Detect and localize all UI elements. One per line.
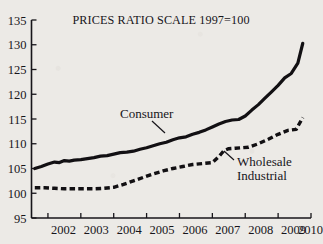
x-tick-label: 2006 bbox=[182, 223, 207, 237]
x-tick-label: 2010 bbox=[298, 223, 323, 237]
x-tick-label: 2003 bbox=[84, 223, 109, 237]
x-tick-label: 2007 bbox=[215, 223, 240, 237]
y-tick-label: 135 bbox=[8, 14, 27, 28]
y-axis: 95100105110115120125130135 bbox=[8, 14, 37, 226]
x-tick-label: 2008 bbox=[248, 223, 273, 237]
chart-title: PRICES RATIO SCALE 1997=100 bbox=[72, 13, 249, 27]
series-label-wholesale: Wholesale bbox=[237, 154, 292, 169]
annotation-group: Consumer Wholesale Industrial bbox=[120, 106, 292, 183]
y-tick-label: 95 bbox=[14, 212, 27, 226]
y-tick-label: 100 bbox=[8, 187, 27, 201]
price-index-chart: PRICES RATIO SCALE 1997=100 951001051101… bbox=[0, 0, 323, 244]
wholesale-leader-line bbox=[224, 151, 234, 160]
y-tick-label: 105 bbox=[8, 162, 27, 176]
y-tick-label-group: 95100105110115120125130135 bbox=[8, 14, 27, 226]
y-tick-label: 110 bbox=[8, 137, 26, 151]
x-tick-label-group: 200220032004200520062007200820092010 bbox=[51, 223, 323, 237]
x-tick-label: 2004 bbox=[117, 223, 143, 237]
y-tick-label: 120 bbox=[8, 88, 27, 102]
series-label-consumer: Consumer bbox=[120, 106, 174, 121]
y-tick-label: 125 bbox=[8, 63, 27, 77]
chart-title-group: PRICES RATIO SCALE 1997=100 bbox=[72, 13, 249, 27]
series-label-industrial: Industrial bbox=[237, 168, 287, 183]
chart-svg: PRICES RATIO SCALE 1997=100 951001051101… bbox=[0, 0, 323, 244]
x-axis: 200220032004200520062007200820092010 bbox=[32, 213, 323, 237]
y-tick-label: 115 bbox=[8, 113, 26, 127]
x-tick-label: 2002 bbox=[51, 223, 76, 237]
y-tick-label: 130 bbox=[8, 38, 27, 52]
x-tick-label: 2005 bbox=[150, 223, 175, 237]
consumer-leader-line bbox=[152, 121, 165, 133]
